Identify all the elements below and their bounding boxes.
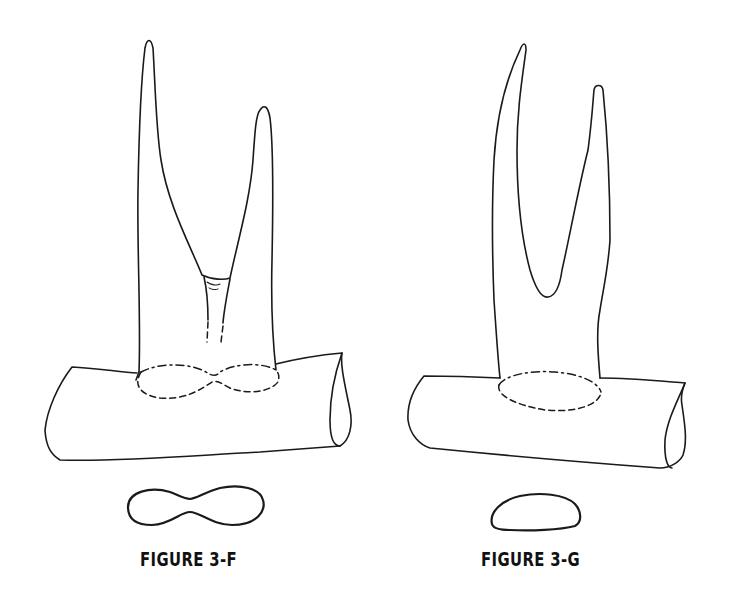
- figure-3f-log-end: [330, 353, 342, 446]
- figure-3f-fork-groove-right: [223, 279, 230, 323]
- figure-3f-tines-outline: [138, 41, 276, 373]
- figure-3g-base-outline-bottom: [499, 385, 601, 411]
- figure-3f-caption: FIGURE 3-F: [140, 548, 237, 570]
- figure-3g-log: [408, 376, 686, 468]
- figure-3g-cross-section: [492, 494, 581, 530]
- figure-3f-fork-shade-2: [209, 288, 218, 290]
- figure-canvas: [0, 0, 735, 606]
- figure-3f-fork-groove-left: [204, 277, 208, 320]
- figure-3f-fork-shade: [207, 282, 220, 285]
- figure-3g-tines-outline: [493, 44, 611, 378]
- figure-3f-groove-hidden-right: [221, 326, 223, 342]
- figure-3g-drawing: [408, 44, 686, 530]
- figure-3g-caption: FIGURE 3-G: [481, 548, 580, 570]
- figure-3f-drawing: [45, 41, 351, 526]
- figure-3f-base-outline-bottom: [138, 370, 279, 398]
- figure-3f-base-outline-top: [141, 365, 276, 376]
- figure-3f-cross-section: [128, 487, 264, 526]
- figure-3g-base-outline-top: [499, 372, 601, 392]
- figure-3f-groove-hidden-left: [207, 322, 208, 342]
